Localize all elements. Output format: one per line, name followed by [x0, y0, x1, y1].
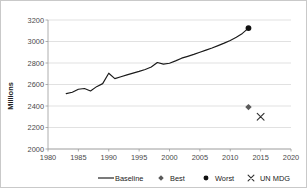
series-baseline-line	[66, 28, 248, 94]
data-point-best	[245, 104, 251, 110]
chart-legend: BaselineBestWorstUN MDG	[98, 174, 290, 183]
y-axis-title: Millions	[6, 82, 15, 110]
y-tick-label: 2200	[28, 123, 44, 132]
x-tick-label: 2020	[283, 153, 299, 162]
y-tick-label: 3200	[28, 16, 44, 25]
y-tick-label: 3000	[28, 37, 44, 46]
x-tick-label: 2000	[161, 153, 177, 162]
x-tick-label: 1980	[40, 153, 56, 162]
legend-item-worst[interactable]: Worst	[204, 174, 235, 183]
x-axis-tick-labels: 198019851990199520002005201020152020	[40, 153, 299, 162]
data-point-worst	[246, 25, 252, 31]
legend-marker-circle-icon	[204, 176, 209, 181]
legend-marker-x-icon	[248, 175, 254, 181]
y-tick-label: 2800	[28, 59, 44, 68]
legend-marker-diamond-icon	[158, 175, 163, 180]
legend-item-best[interactable]: Best	[158, 174, 185, 183]
plot-area: Millions 2000220024002600280030003200 19…	[1, 1, 308, 189]
x-tick-label: 1985	[70, 153, 86, 162]
legend-label: Best	[170, 174, 185, 183]
x-tick-label: 2015	[252, 153, 268, 162]
y-axis-title-group: Millions	[6, 82, 15, 110]
x-tick-label: 2010	[222, 153, 238, 162]
legend-item-un-mdg[interactable]: UN MDG	[248, 174, 290, 183]
gridlines	[46, 20, 292, 149]
y-tick-label: 2400	[28, 102, 44, 111]
data-point-un-mdg	[257, 113, 264, 120]
legend-label: Baseline	[115, 174, 143, 183]
legend-label: Worst	[215, 174, 234, 183]
chart-container: Millions 2000220024002600280030003200 19…	[0, 0, 307, 188]
y-tick-label: 2600	[28, 80, 44, 89]
legend-item-baseline[interactable]: Baseline	[98, 174, 143, 183]
y-axis-tick-labels: 2000220024002600280030003200	[28, 16, 44, 154]
legend-label: UN MDG	[260, 174, 290, 183]
x-tick-label: 1995	[131, 153, 147, 162]
x-tick-label: 2005	[192, 153, 208, 162]
x-tick-label: 1990	[101, 153, 117, 162]
